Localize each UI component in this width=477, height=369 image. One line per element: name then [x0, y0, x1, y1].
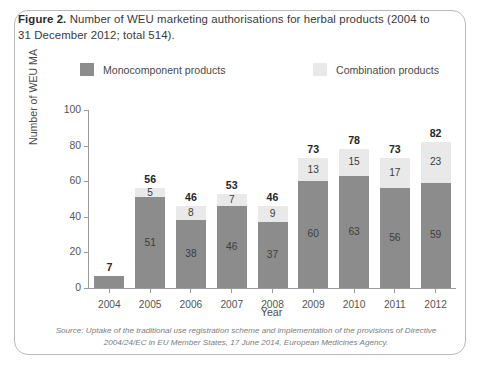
figure-caption-text: Number of WEU marketing authorisations f…: [18, 13, 430, 41]
source-line-1: Source: Uptake of the traditional use re…: [56, 326, 403, 335]
legend-swatch-combination-icon: [313, 63, 327, 76]
legend-item-monocomponent: Monocomponent products: [80, 63, 226, 76]
figure-frame: [14, 10, 466, 355]
source-note: Source: Uptake of the traditional use re…: [46, 325, 446, 348]
chart-legend: Monocomponent products Combination produ…: [80, 63, 440, 81]
legend-swatch-monocomponent-icon: [80, 63, 94, 76]
legend-label-monocomponent: Monocomponent products: [103, 64, 226, 76]
figure-caption: Figure 2. Number of WEU marketing author…: [18, 12, 434, 43]
figure-label: Figure 2.: [18, 13, 66, 25]
legend-label-combination: Combination products: [336, 64, 439, 76]
legend-item-combination: Combination products: [313, 63, 439, 76]
